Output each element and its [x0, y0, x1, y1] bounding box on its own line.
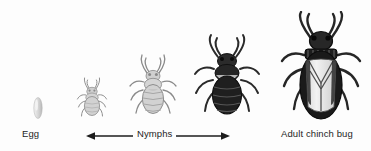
late-instar-nymph-illustration — [190, 33, 264, 129]
adult-chinch-bug-illustration — [276, 11, 366, 129]
label-nymphs: Nymphs — [133, 128, 176, 139]
label-egg: Egg — [22, 128, 39, 139]
first-instar-nymph-illustration — [72, 75, 112, 125]
arrow-head-left — [86, 132, 95, 140]
arrow-head-right — [221, 132, 230, 140]
stage-nymph-2 — [126, 53, 180, 127]
egg-illustration — [28, 95, 48, 121]
chinch-bug-life-cycle-figure: Egg Nymphs Adult chinch bug — [0, 0, 371, 151]
label-adult-chinch-bug: Adult chinch bug — [281, 128, 353, 139]
stage-nymph-1 — [72, 75, 112, 125]
stage-egg — [28, 95, 48, 121]
stage-nymph-3 — [190, 33, 264, 129]
second-instar-nymph-illustration — [126, 53, 180, 127]
stage-adult — [276, 11, 366, 129]
